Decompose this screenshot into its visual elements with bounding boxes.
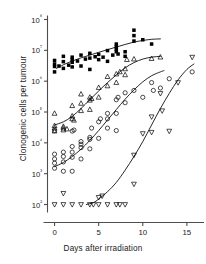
data-point <box>149 115 154 119</box>
data-point <box>61 191 66 195</box>
data-point <box>91 203 96 207</box>
data-point <box>61 150 65 154</box>
data-point <box>150 80 154 84</box>
x-axis-label: Days after irradiation <box>0 244 206 253</box>
fit-curve-open-triangle-series <box>55 56 161 125</box>
data-point <box>62 60 66 64</box>
data-markers-group <box>52 28 194 207</box>
data-point <box>79 139 83 143</box>
data-point <box>167 129 172 133</box>
data-point <box>105 203 110 207</box>
data-point <box>88 56 92 60</box>
data-point <box>52 111 57 115</box>
series-open-circle-series <box>52 70 194 174</box>
data-point <box>70 65 74 69</box>
y-tick-label: 10³ <box>32 168 42 178</box>
y-axis-tick-labels: 10²10³10⁴10⁵10⁶10⁷10⁸ <box>31 14 42 209</box>
data-point <box>96 95 101 99</box>
data-point <box>62 67 66 71</box>
data-point <box>105 74 110 78</box>
data-point <box>79 64 83 68</box>
data-point <box>114 111 118 115</box>
data-point <box>123 203 128 207</box>
data-point <box>114 80 119 84</box>
y-tick-label: 10² <box>32 199 42 209</box>
data-point <box>190 55 195 59</box>
data-point <box>70 169 74 173</box>
data-point <box>88 52 92 56</box>
data-point <box>79 157 83 161</box>
data-point <box>70 103 75 107</box>
data-point <box>158 92 163 96</box>
y-tick-label: 10⁷ <box>32 45 42 55</box>
fit-curves-group <box>55 39 194 205</box>
x-tick-label: 0 <box>52 228 57 237</box>
data-point <box>53 62 57 65</box>
data-point <box>79 53 83 57</box>
data-point <box>149 130 154 134</box>
data-point <box>123 101 127 105</box>
data-point <box>132 153 137 157</box>
y-axis-label: Clonogenic cells per tumour <box>19 34 28 184</box>
x-axis-tick-labels: 051015 <box>52 228 191 237</box>
data-point <box>141 38 145 42</box>
data-point <box>151 88 155 92</box>
chart-canvas: 10²10³10⁴10⁵10⁶10⁷10⁸ 051015 <box>0 0 206 264</box>
data-point <box>88 68 92 72</box>
data-point <box>132 39 136 43</box>
data-point <box>97 136 101 140</box>
data-point <box>115 42 119 46</box>
data-point <box>132 56 137 60</box>
data-point <box>70 203 75 207</box>
data-point <box>79 92 84 96</box>
data-point <box>160 109 165 113</box>
data-point <box>52 161 56 165</box>
figure-container: 10²10³10⁴10⁵10⁶10⁷10⁸ 051015 Clonogenic … <box>0 0 206 264</box>
data-point <box>52 203 57 207</box>
data-point <box>52 157 56 161</box>
data-point <box>67 63 71 67</box>
data-point <box>106 49 110 53</box>
data-point <box>158 86 162 90</box>
data-point <box>140 132 145 136</box>
data-point <box>111 53 115 57</box>
x-tick-label: 5 <box>96 228 101 237</box>
data-point <box>132 28 136 32</box>
data-point <box>132 182 137 186</box>
data-point <box>123 91 127 95</box>
data-point <box>106 60 110 64</box>
data-point <box>53 70 57 74</box>
data-point <box>87 107 92 111</box>
data-point <box>57 64 61 68</box>
data-point <box>167 77 171 81</box>
data-point <box>190 70 194 74</box>
data-point <box>117 203 122 207</box>
y-tick-label: 10⁵ <box>31 107 42 117</box>
y-tick-label: 10⁶ <box>31 76 42 86</box>
data-point <box>105 111 109 115</box>
x-tick-label: 10 <box>138 228 147 237</box>
data-point <box>70 150 74 154</box>
y-tick-label: 10⁴ <box>31 138 42 148</box>
data-point <box>52 152 56 156</box>
data-point <box>96 203 101 207</box>
data-point <box>70 55 74 59</box>
data-point <box>70 144 74 148</box>
data-point <box>61 154 65 158</box>
data-point <box>62 55 66 59</box>
x-tick-label: 15 <box>183 228 192 237</box>
data-point <box>79 203 84 207</box>
data-point <box>84 57 88 61</box>
y-tick-label: 10⁸ <box>31 14 42 24</box>
data-point <box>61 203 66 207</box>
data-point <box>97 53 101 57</box>
data-point <box>96 85 101 89</box>
data-point <box>93 55 97 59</box>
data-point <box>101 55 105 59</box>
data-point <box>61 169 65 173</box>
data-point <box>79 101 84 105</box>
data-point <box>90 126 94 130</box>
x-axis-group: 051015 <box>44 223 205 237</box>
data-point <box>53 59 57 63</box>
series-open-inverted-triangle-series <box>52 55 194 207</box>
